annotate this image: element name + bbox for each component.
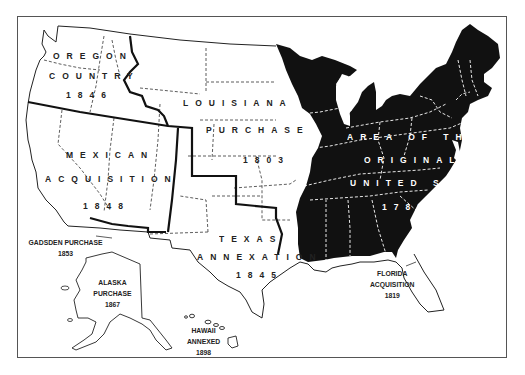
label-hawaii: HAWAII ANNEXED 1898 bbox=[187, 325, 220, 358]
label-texas-line1: TEXAS bbox=[219, 233, 282, 245]
label-original-line1: AREA OF THE bbox=[347, 131, 481, 143]
label-oregon-year: 1846 bbox=[66, 89, 113, 101]
label-mexican-line1: MEXICAN bbox=[66, 149, 154, 161]
label-florida-year: 1819 bbox=[370, 290, 415, 301]
alaska-island bbox=[61, 286, 69, 290]
label-louisiana-line2: PURCHASE bbox=[206, 124, 310, 136]
alaska-island bbox=[68, 319, 73, 322]
label-oregon-line1: OREGON bbox=[53, 50, 133, 62]
original-united-states-region bbox=[276, 24, 500, 262]
label-gadsden: GADSDEN PURCHASE 1853 bbox=[29, 237, 103, 259]
label-louisiana-year: 1803 bbox=[243, 154, 290, 166]
label-original-line2: ORIGINAL bbox=[364, 154, 462, 166]
label-hawaii-line2: ANNEXED bbox=[187, 336, 220, 347]
label-hawaii-line1: HAWAII bbox=[187, 325, 220, 336]
florida-leader bbox=[406, 262, 416, 266]
acquisition-boundaries bbox=[28, 36, 282, 254]
label-florida-line2: ACQUISITION bbox=[370, 279, 415, 290]
label-texas-year: 1845 bbox=[236, 269, 283, 281]
label-mexican-line2: ACQUISITION bbox=[45, 173, 178, 185]
label-mexican-year: 1848 bbox=[83, 200, 130, 212]
label-gadsden-year: 1853 bbox=[29, 248, 103, 259]
label-gadsden-name: GADSDEN PURCHASE bbox=[29, 237, 103, 248]
label-texas-line2: ANNEXATION bbox=[197, 251, 323, 263]
label-original-line3: UNITED STATES bbox=[350, 177, 507, 189]
label-alaska-year: 1867 bbox=[93, 299, 131, 310]
label-oregon-line2: COUNTRY bbox=[49, 70, 140, 82]
label-original-year: 1783 bbox=[382, 201, 429, 213]
label-florida: FLORIDA ACQUISITION 1819 bbox=[370, 268, 415, 301]
label-alaska-line2: PURCHASE bbox=[93, 288, 131, 299]
label-louisiana-line1: LOUISIANA bbox=[183, 97, 293, 109]
label-alaska-line1: ALASKA bbox=[93, 277, 131, 288]
label-alaska: ALASKA PURCHASE 1867 bbox=[93, 277, 131, 310]
label-hawaii-year: 1898 bbox=[187, 347, 220, 358]
label-florida-line1: FLORIDA bbox=[370, 268, 415, 279]
